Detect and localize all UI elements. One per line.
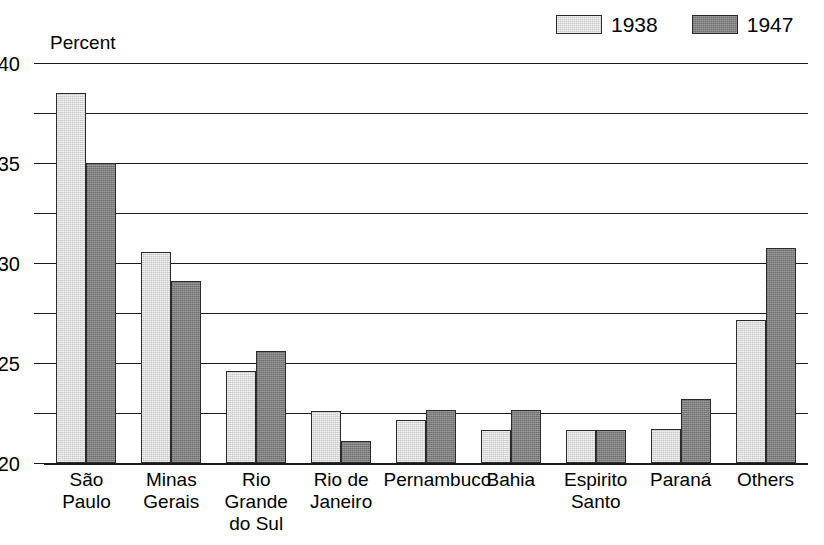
y-axis-tick: 35 xyxy=(34,113,44,114)
bar[interactable] xyxy=(341,441,371,463)
y-axis-tick: 40 xyxy=(34,63,44,64)
x-axis-category-label: Others xyxy=(723,469,808,491)
bar[interactable] xyxy=(226,371,256,463)
x-axis-category-label: Espirito Santo xyxy=(553,469,638,513)
bar[interactable] xyxy=(311,411,341,463)
y-axis-tick: 10 xyxy=(34,363,44,364)
y-axis-tick-label: 40 xyxy=(0,54,20,74)
bars-group xyxy=(44,63,808,463)
y-axis-tick-label: 30 xyxy=(0,254,20,274)
y-axis-tick: 0 xyxy=(34,463,44,464)
x-axis-category-label: Rio de Janeiro xyxy=(299,469,384,513)
bar[interactable] xyxy=(651,429,681,463)
x-axis-category-label: São Paulo xyxy=(44,469,129,513)
y-axis-tick: 25 xyxy=(34,213,44,214)
x-axis-baseline xyxy=(44,463,808,465)
x-axis-labels-group: São PauloMinas GeraisRio Grande do SulRi… xyxy=(44,469,808,545)
x-axis-category-label: Minas Gerais xyxy=(129,469,214,513)
y-axis-tick-label: 25 xyxy=(0,354,20,374)
bar-chart: 1938 1947 Percent 0510152025303540 São P… xyxy=(0,0,824,545)
plot-area: 0510152025303540 xyxy=(44,63,808,463)
bar[interactable] xyxy=(681,399,711,463)
y-axis-tick: 30 xyxy=(34,163,44,164)
bar[interactable] xyxy=(426,410,456,463)
x-axis-category-label: Bahia xyxy=(468,469,553,491)
bar[interactable] xyxy=(86,163,116,463)
bar[interactable] xyxy=(511,410,541,463)
y-axis-tick: 20 xyxy=(34,263,44,264)
legend-swatch-1947-icon xyxy=(692,15,738,34)
bar[interactable] xyxy=(736,320,766,463)
bar[interactable] xyxy=(566,430,596,463)
bar[interactable] xyxy=(141,252,171,463)
chart-legend: 1938 1947 xyxy=(556,14,793,35)
x-axis-category-label: Rio Grande do Sul xyxy=(214,469,299,535)
y-axis-tick: 15 xyxy=(34,313,44,314)
legend-swatch-1938-icon xyxy=(556,15,602,34)
bar[interactable] xyxy=(256,351,286,463)
x-axis-category-label: Pernambuco xyxy=(384,469,469,491)
legend-entry-1947[interactable]: 1947 xyxy=(692,14,794,35)
bar[interactable] xyxy=(171,281,201,463)
legend-entry-1938[interactable]: 1938 xyxy=(556,14,658,35)
bar[interactable] xyxy=(481,430,511,463)
bar[interactable] xyxy=(56,93,86,463)
y-axis-title: Percent xyxy=(50,33,115,52)
bar[interactable] xyxy=(596,430,626,463)
legend-label-1938: 1938 xyxy=(611,14,658,35)
bar[interactable] xyxy=(766,248,796,463)
y-axis-tick-label: 35 xyxy=(0,154,20,174)
y-axis-tick: 5 xyxy=(34,413,44,414)
legend-label-1947: 1947 xyxy=(747,14,794,35)
bar[interactable] xyxy=(396,420,426,463)
x-axis-category-label: Paraná xyxy=(638,469,723,491)
y-axis-tick-label: 20 xyxy=(0,454,20,474)
